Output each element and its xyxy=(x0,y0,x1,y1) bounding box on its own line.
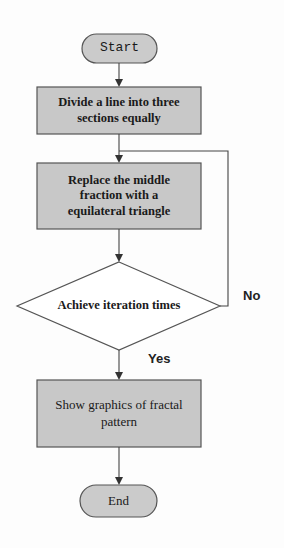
flowchart-graphics xyxy=(0,0,284,548)
arrowhead-icon xyxy=(115,372,123,380)
start-label: Start xyxy=(82,34,157,63)
arrowhead-icon xyxy=(115,79,123,87)
arrowhead-icon xyxy=(115,155,123,163)
decision-label: Achieve iteration times xyxy=(30,294,208,318)
end-label: End xyxy=(80,485,157,517)
flowchart-canvas: Start Divide a line into three sections … xyxy=(0,0,284,548)
show-label: Show graphics of fractal pattern xyxy=(40,380,198,447)
divide-label: Divide a line into three sections equall… xyxy=(44,87,194,134)
replace-label: Replace the middle fraction with a equil… xyxy=(52,163,186,229)
arrowhead-icon xyxy=(115,477,123,485)
no-edge-label: No xyxy=(243,288,260,303)
arrowhead-icon xyxy=(115,254,123,262)
yes-edge-label: Yes xyxy=(148,351,170,366)
